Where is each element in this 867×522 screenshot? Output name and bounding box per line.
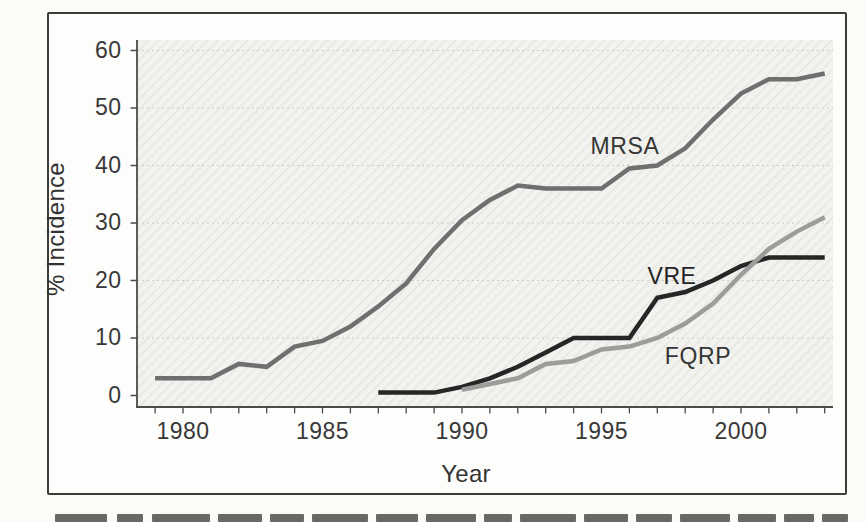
- x-tick-label: 2000: [714, 418, 767, 445]
- caption-text-fragment: [117, 514, 143, 522]
- caption-text-fragment: [312, 514, 368, 522]
- caption-text-fragment: [784, 514, 814, 522]
- x-tick-label: 1990: [435, 418, 488, 445]
- series-label-vre: VRE: [647, 263, 696, 290]
- caption-text-fragment: [376, 514, 418, 522]
- caption-text-fragment: [426, 514, 476, 522]
- y-tick-label: 10: [58, 324, 122, 351]
- caption-text-fragment: [484, 514, 512, 522]
- caption-text-fragment: [680, 514, 730, 522]
- caption-text-fragment: [55, 514, 107, 522]
- y-tick-label: 0: [58, 381, 122, 408]
- x-tick-label: 1995: [575, 418, 628, 445]
- y-tick-label: 30: [58, 209, 122, 236]
- caption-text-fragment: [738, 514, 776, 522]
- caption-text-fragment: [218, 514, 262, 522]
- caption-text-fragment: [152, 514, 210, 522]
- caption-text-fragment: [636, 514, 672, 522]
- caption-text-fragment: [584, 514, 628, 522]
- y-tick-label: 50: [58, 94, 122, 121]
- x-axis-title: Year: [441, 460, 491, 488]
- series-label-fqrp: FQRP: [665, 343, 731, 370]
- x-tick-label: 1980: [156, 418, 209, 445]
- y-tick-label: 60: [58, 36, 122, 63]
- y-tick-label: 40: [58, 151, 122, 178]
- x-tick-label: 1985: [296, 418, 349, 445]
- caption-text-fragment: [822, 514, 848, 522]
- caption-text-fragment: [270, 514, 304, 522]
- series-label-mrsa: MRSA: [591, 133, 660, 160]
- caption-text-fragment: [520, 514, 576, 522]
- y-tick-label: 20: [58, 266, 122, 293]
